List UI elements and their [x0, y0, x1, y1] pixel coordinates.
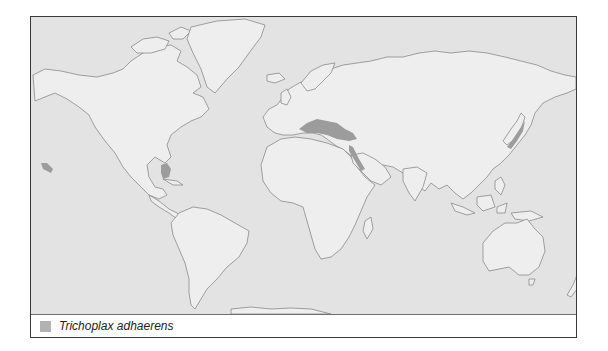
- legend-swatch: [40, 321, 51, 332]
- landmass-central-america: [149, 195, 181, 219]
- world-map: [31, 17, 576, 315]
- legend-label: Trichoplax adhaerens: [59, 319, 174, 333]
- map-frame: Trichoplax adhaerens: [30, 16, 577, 338]
- landmass-north-america: [33, 45, 209, 199]
- landmass-indonesia: [451, 203, 475, 215]
- range-hawaii: [41, 163, 53, 173]
- range-florida-caribbean: [161, 163, 171, 179]
- landmass-india: [403, 167, 427, 201]
- landmass-iceland: [267, 73, 285, 83]
- landmass-new-zealand: [567, 275, 576, 297]
- world-map-graphic: [31, 17, 576, 314]
- landmass-australia: [483, 219, 545, 275]
- landmass-south-america: [171, 207, 249, 309]
- map-legend: Trichoplax adhaerens: [31, 315, 576, 337]
